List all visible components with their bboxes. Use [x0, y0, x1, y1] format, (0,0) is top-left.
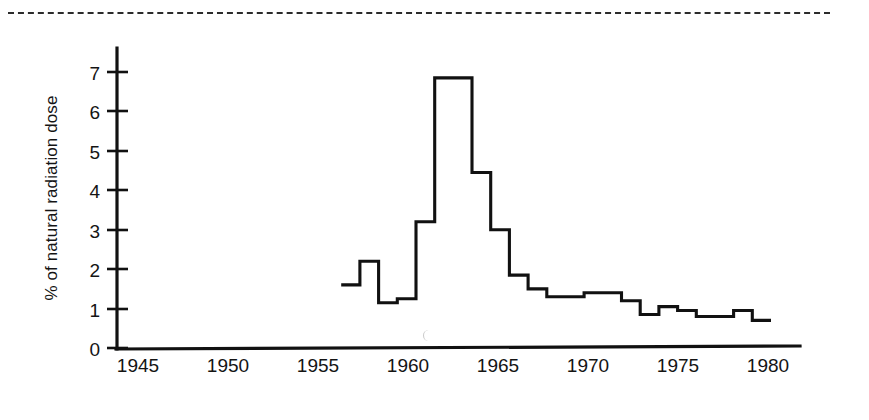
x-tick-label-1945: 1945: [103, 356, 173, 375]
y-axis-title: % of natural radiation dose: [42, 68, 62, 328]
y-tick-label-5: 5: [74, 143, 100, 162]
figure-root: % of natural radiation dose 0 1 2 3 4 5 …: [0, 0, 869, 420]
y-tick-label-3: 3: [74, 222, 100, 241]
y-tick-label-1: 1: [74, 301, 100, 320]
x-axis-spine: [116, 346, 800, 349]
scan-artifact-speck: [423, 330, 430, 341]
x-tick-label-1950: 1950: [193, 356, 263, 375]
x-tick-label-1960: 1960: [373, 356, 443, 375]
y-tick-label-7: 7: [74, 64, 100, 83]
y-tick-label-0: 0: [74, 340, 100, 359]
y-tick-label-4: 4: [74, 182, 100, 201]
x-tick-label-1970: 1970: [553, 356, 623, 375]
dose-step-series: [341, 78, 771, 321]
y-tick-label-2: 2: [74, 261, 100, 280]
x-tick-label-1965: 1965: [463, 356, 533, 375]
y-tick-label-6: 6: [74, 103, 100, 122]
x-tick-label-1975: 1975: [643, 356, 713, 375]
x-tick-label-1980: 1980: [733, 356, 803, 375]
chart-plot-area: % of natural radiation dose 0 1 2 3 4 5 …: [0, 0, 869, 420]
x-tick-label-1955: 1955: [283, 356, 353, 375]
